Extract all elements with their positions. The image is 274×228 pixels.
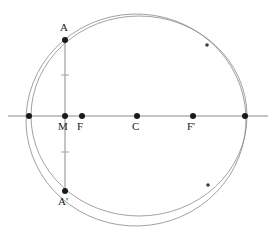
geometry-figure: A A' M F C F' — [0, 0, 274, 228]
label-f: F — [77, 121, 83, 132]
point-f-prime — [190, 113, 196, 119]
figure-canvas — [0, 0, 274, 228]
lower-right-intersection — [206, 183, 210, 187]
label-c: C — [132, 121, 139, 132]
left-vertex-point — [26, 113, 32, 119]
upper-right-intersection — [205, 43, 209, 47]
label-a-prime: A' — [58, 196, 68, 207]
right-vertex-point — [242, 113, 248, 119]
label-f-prime: F' — [187, 121, 195, 132]
point-a — [62, 37, 68, 43]
point-f — [79, 113, 85, 119]
point-c — [134, 113, 140, 119]
point-a-prime — [62, 188, 68, 194]
label-m: M — [58, 121, 68, 132]
point-m — [62, 113, 68, 119]
label-a: A — [60, 22, 68, 33]
